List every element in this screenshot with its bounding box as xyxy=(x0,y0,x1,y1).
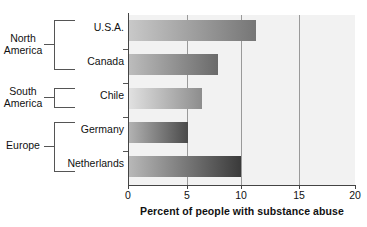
bracket-europe xyxy=(54,122,75,172)
x-axis-line xyxy=(128,185,356,186)
bracket-north-america xyxy=(54,20,75,70)
bar-netherlands xyxy=(128,156,241,177)
group-label-north-america: North America xyxy=(2,33,44,56)
stem-europe xyxy=(44,146,55,147)
stem-south-america xyxy=(44,97,55,98)
group-label-europe: Europe xyxy=(2,140,44,152)
bar-chart: 0 5 10 15 20 Percent of people with subs… xyxy=(0,0,367,227)
y-axis-line xyxy=(128,13,129,187)
x-axis-title: Percent of people with substance abuse xyxy=(128,205,356,217)
xtick-label-5: 5 xyxy=(175,189,199,201)
xtick-label-10: 10 xyxy=(229,189,253,201)
plot-area xyxy=(128,15,355,185)
bar-canada xyxy=(128,54,218,75)
bar-chile xyxy=(128,88,202,109)
bracket-south-america xyxy=(54,88,75,108)
group-hierarchy: North America South America Europe xyxy=(0,0,128,227)
xtick-label-15: 15 xyxy=(287,189,311,201)
bar-germany xyxy=(128,122,188,143)
stem-north-america xyxy=(44,44,55,45)
gridline-15 xyxy=(299,15,300,185)
bar-usa xyxy=(128,20,256,41)
group-label-south-america: South America xyxy=(2,86,44,109)
xtick-label-20: 20 xyxy=(343,189,367,201)
